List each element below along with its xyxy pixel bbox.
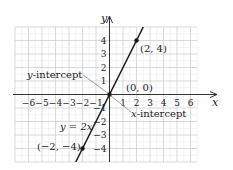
x-tick-label: −5 xyxy=(35,98,49,108)
x-tick-label: 4 xyxy=(161,98,167,108)
x-tick-label: 5 xyxy=(174,98,180,108)
y-tick-label: 4 xyxy=(101,36,107,46)
data-point xyxy=(80,146,84,150)
point-label-origin: (0, 0) xyxy=(126,82,153,93)
line-chart: −6−5−4−3−2−1123456−4−3−2−11234 y x (2, 4… xyxy=(0,0,233,170)
data-point xyxy=(107,92,111,96)
y-tick-label: 1 xyxy=(101,76,107,86)
x-tick-label: −3 xyxy=(62,98,76,108)
point-label-neg2-neg4: (−2, −4) xyxy=(37,141,81,152)
x-tick-label: −4 xyxy=(49,98,63,108)
x-tick-label: 6 xyxy=(188,98,194,108)
x-tick-label: −2 xyxy=(76,98,89,108)
y-intercept-text: -intercept xyxy=(33,69,83,80)
x-axis-label: x xyxy=(212,96,219,109)
point-label-2-4: (2, 4) xyxy=(140,43,167,54)
y-axis-label: y xyxy=(100,12,108,25)
x-intercept-label: x-intercept xyxy=(131,108,186,119)
x-tick-label: −6 xyxy=(22,98,36,108)
x-intercept-text: -intercept xyxy=(137,108,187,119)
y-tick-label: −4 xyxy=(93,144,107,154)
data-point xyxy=(134,38,138,42)
x-tick-label: 3 xyxy=(147,98,153,108)
y-tick-label: 2 xyxy=(101,63,107,73)
x-tick-label: 2 xyxy=(134,98,140,108)
y-tick-label: 3 xyxy=(101,49,107,59)
equation-label: y = 2x xyxy=(59,121,93,132)
y-tick-label: −3 xyxy=(93,130,107,140)
y-intercept-label: y-intercept xyxy=(26,69,82,80)
